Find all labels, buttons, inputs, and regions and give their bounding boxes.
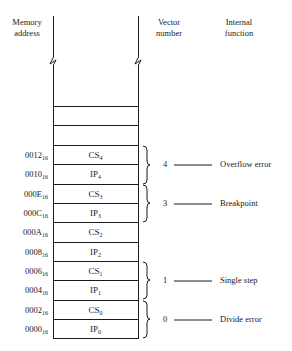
memory-cell: CS2	[53, 227, 138, 238]
memory-cell: CS3	[53, 189, 138, 200]
header-vector-number: Vector number	[148, 17, 190, 38]
header-internal-function: Internal function	[214, 17, 264, 38]
brace-vector-1	[143, 262, 150, 299]
vector-function: Overflow error	[220, 159, 271, 169]
memory-cell: IP0	[53, 324, 138, 335]
address-label: 000216	[0, 305, 48, 316]
vector-number: 3	[163, 198, 167, 208]
vector-function: Single step	[220, 275, 258, 285]
vector-number: 1	[163, 275, 167, 285]
memory-cell: CS1	[53, 266, 138, 277]
address-label: 000A16	[0, 227, 48, 238]
address-label: 000016	[0, 324, 48, 335]
address-label: 000C16	[0, 208, 48, 219]
memory-cell: IP2	[53, 247, 138, 258]
brace-vector-4	[143, 146, 150, 184]
address-label: 000816	[0, 247, 48, 258]
memory-cell: IP1	[53, 285, 138, 296]
vector-number: 4	[163, 159, 167, 169]
address-label: 000E16	[0, 189, 48, 200]
address-label: 000616	[0, 266, 48, 277]
memory-cell: IP3	[53, 208, 138, 219]
vector-function: Divide error	[220, 314, 262, 324]
memory-cell: CS0	[53, 305, 138, 316]
header-memory-address: Memory address	[6, 17, 48, 38]
brace-vector-3	[143, 185, 150, 222]
vector-function: Breakpoint	[220, 198, 258, 208]
address-label: 000416	[0, 285, 48, 296]
vector-number: 0	[163, 314, 167, 324]
memory-cell: IP4	[53, 169, 138, 180]
memory-cell: CS4	[53, 150, 138, 161]
brace-vector-0	[143, 301, 150, 338]
address-label: 001016	[0, 169, 48, 180]
address-label: 001216	[0, 150, 48, 161]
